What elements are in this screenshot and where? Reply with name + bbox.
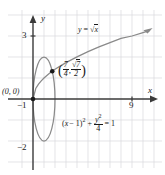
sqrt-eq-radicand: x (94, 24, 98, 34)
point-origin-marker (31, 97, 36, 102)
origin-point-label: (0, 0) (2, 88, 19, 96)
sqrt-curve-equation-label: y=√x (78, 26, 98, 34)
y-axis-label: y (41, 14, 45, 23)
point-close-paren: ) (81, 63, 86, 78)
ellipse-y-power: 2 (99, 113, 102, 119)
ellipse-plus: + (85, 119, 94, 128)
point-x-fraction: 74 (63, 61, 69, 78)
point-intersection-marker (50, 69, 55, 74)
sqrt-eq-equals: = (82, 25, 91, 34)
y-tick-label-minus2: −2 (17, 143, 27, 152)
ellipse-minus-one: − 1) (68, 119, 82, 128)
sqrt-radical-icon: √x (90, 24, 98, 34)
point-y-radicand: 7 (76, 59, 80, 69)
point-x-denominator: 4 (63, 70, 69, 78)
point-y-fraction: √72 (71, 61, 81, 78)
ellipse-equation-label: (x− 1)2+y24= 1 (62, 114, 115, 134)
ellipse-fraction-denominator: 4 (94, 125, 103, 133)
sqrt-curve-arrowhead (143, 28, 152, 34)
x-axis-label: x (148, 86, 152, 95)
point-y-denominator: 2 (71, 70, 81, 78)
x-tick-label-9: 9 (129, 101, 134, 110)
math-figure: y x 3 −1 −2 9 (0, 0) y=√x (74,√72) (x− 1… (0, 0, 165, 175)
ellipse-y-fraction: y24 (94, 113, 103, 133)
ellipse-equals-one: = 1 (103, 119, 116, 128)
y-tick-label-minus1: −1 (17, 101, 27, 110)
intersection-point-label: (74,√72) (58, 62, 86, 79)
y-tick-label-3: 3 (22, 31, 27, 40)
y-axis-arrowhead (30, 15, 37, 23)
